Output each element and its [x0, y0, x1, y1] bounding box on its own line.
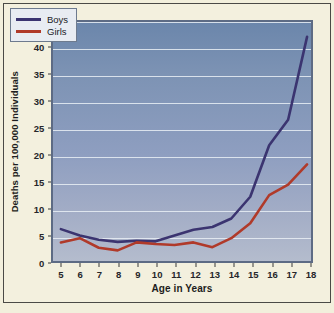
- x-tick-label-18: 18: [306, 269, 317, 280]
- plot-area: [51, 20, 313, 263]
- x-tick-label-16: 16: [267, 269, 278, 280]
- x-tick-label-9: 9: [135, 269, 140, 280]
- x-tick-label-11: 11: [171, 269, 181, 280]
- y-tick-label-10: 10: [34, 204, 44, 215]
- x-tick-mark-9: [137, 263, 138, 267]
- chart-legend: BoysGirls: [10, 8, 77, 42]
- x-tick-label-14: 14: [229, 269, 240, 280]
- y-tick-label-25: 25: [34, 123, 44, 134]
- x-tick-mark-8: [118, 263, 119, 267]
- x-tick-mark-10: [157, 263, 158, 267]
- y-tick-label-0: 0: [39, 258, 44, 269]
- x-tick-mark-6: [80, 263, 81, 267]
- legend-swatch-girls: [16, 30, 41, 33]
- x-tick-label-8: 8: [116, 269, 121, 280]
- legend-label-girls: Girls: [47, 26, 67, 37]
- series-line-girls: [61, 164, 307, 250]
- y-tick-label-5: 5: [39, 231, 44, 242]
- x-tick-mark-11: [176, 263, 177, 267]
- y-tick-label-35: 35: [34, 69, 44, 80]
- x-tick-mark-13: [214, 263, 215, 267]
- x-tick-mark-17: [291, 263, 292, 267]
- x-tick-label-17: 17: [286, 269, 297, 280]
- chart-figure: Deaths per 100,000 Individuals 051015202…: [0, 0, 334, 313]
- y-tick-label-15: 15: [34, 177, 44, 188]
- y-tick-label-20: 20: [34, 150, 44, 161]
- series-lines: [53, 22, 311, 261]
- x-tick-mark-16: [272, 263, 273, 267]
- y-axis-title-text: Deaths per 100,000 Individuals: [9, 71, 20, 212]
- legend-swatch-boys: [16, 18, 41, 21]
- x-tick-mark-5: [61, 263, 62, 267]
- x-axis-title: Age in Years: [51, 283, 313, 294]
- y-axis-ticks: 051015202530354045: [20, 20, 48, 263]
- x-tick-label-12: 12: [190, 269, 201, 280]
- x-tick-label-7: 7: [97, 269, 102, 280]
- legend-item-girls[interactable]: Girls: [16, 25, 68, 37]
- x-tick-mark-12: [195, 263, 196, 267]
- x-tick-mark-7: [99, 263, 100, 267]
- x-tick-label-10: 10: [152, 269, 163, 280]
- y-tick-label-30: 30: [34, 96, 44, 107]
- x-tick-mark-18: [311, 263, 312, 267]
- x-tick-label-15: 15: [248, 269, 259, 280]
- x-tick-label-13: 13: [210, 269, 221, 280]
- x-tick-mark-15: [253, 263, 254, 267]
- y-tick-label-40: 40: [34, 42, 44, 53]
- legend-label-boys: Boys: [47, 14, 68, 25]
- x-axis-ticks: 56789101112131415161718: [51, 263, 313, 281]
- x-tick-label-6: 6: [78, 269, 83, 280]
- x-tick-mark-14: [234, 263, 235, 267]
- legend-item-boys[interactable]: Boys: [16, 13, 68, 25]
- x-tick-label-5: 5: [58, 269, 63, 280]
- series-line-boys: [61, 37, 307, 242]
